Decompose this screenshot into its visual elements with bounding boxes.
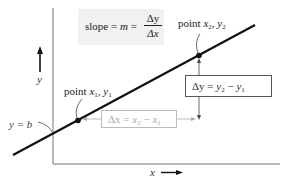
y-axis-arrowhead-icon (37, 46, 43, 54)
point-1-leader (76, 99, 82, 118)
delta-x-eq: = (121, 113, 133, 125)
fraction-bar (144, 25, 162, 26)
point-2-marker (196, 53, 202, 59)
delta-y-eq: = (205, 80, 217, 92)
point-1-prefix: point (64, 85, 89, 97)
point-1-y-sub: 1 (108, 91, 112, 99)
point-2-prefix: point (178, 17, 203, 29)
x-axis-arrowhead-icon (176, 170, 183, 175)
slope-formula-text: slope = m = (85, 20, 137, 32)
intercept-leader (38, 122, 53, 133)
point-2-y-sub: 2 (222, 23, 226, 31)
slope-label: slope = (85, 20, 120, 32)
delta-x-minus: − (141, 113, 153, 125)
delta-y-arrowhead-down-icon (197, 115, 201, 120)
point-1-marker (75, 118, 81, 124)
delta-x-formula: Δx = x2 − x1 (108, 113, 161, 127)
delta-y-lhs: Δy (192, 80, 205, 92)
slope-equals: = (128, 20, 137, 32)
intercept-label: y = b (9, 119, 32, 130)
delta-x-arrowhead-right-icon (191, 117, 196, 121)
point-2-label: point x2, y2 (178, 18, 226, 31)
slope-numerator: Δy (144, 12, 162, 24)
delta-y-minus: − (225, 80, 237, 92)
delta-x-b-sub: 1 (157, 119, 161, 127)
delta-y-b-sub: 1 (241, 86, 245, 94)
delta-y-formula: Δy = y2 − y1 (192, 80, 245, 94)
slope-m: m (120, 20, 128, 32)
point-2-leader (196, 34, 200, 53)
delta-x-lhs: Δx (108, 113, 121, 125)
x-axis-label: x (150, 167, 155, 178)
point-1-label: point x1, y1 (64, 86, 112, 99)
slope-fraction: Δy Δx (144, 12, 162, 39)
y-axis-label: y (37, 74, 42, 85)
slope-denominator: Δx (144, 27, 162, 39)
delta-y-arrowhead-up-icon (197, 58, 201, 63)
